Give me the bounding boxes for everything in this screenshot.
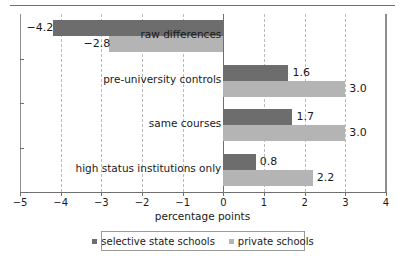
gridline	[345, 14, 346, 192]
y-axis-tick	[20, 103, 24, 104]
legend-item-selective-state-schools: selective state schools	[92, 236, 215, 247]
bar	[223, 81, 345, 97]
bar-value-label: 1.7	[296, 109, 314, 125]
x-axis-tick	[305, 192, 306, 196]
y-axis-tick	[20, 148, 24, 149]
bar	[223, 154, 256, 170]
bar-value-label: 3.0	[349, 81, 367, 97]
bar	[223, 170, 312, 186]
category-label: pre-university controls	[0, 73, 221, 85]
x-axis-tick-label: −3	[94, 197, 109, 208]
bar	[223, 109, 292, 125]
x-axis-tick-label: −5	[13, 197, 28, 208]
x-axis-tick-label: 2	[301, 197, 307, 208]
y-axis-tick	[20, 59, 24, 60]
chart-legend: selective state schools private schools	[101, 231, 305, 251]
x-axis-tick-label: 1	[261, 197, 267, 208]
x-axis-tick	[223, 192, 224, 196]
x-axis-tick	[386, 192, 387, 196]
x-axis-label: percentage points	[0, 210, 405, 222]
bar	[223, 125, 345, 141]
x-axis-tick-label: −1	[175, 197, 190, 208]
legend-swatch-icon	[92, 239, 97, 244]
x-axis-tick	[142, 192, 143, 196]
x-axis-tick	[264, 192, 265, 196]
x-axis-tick-label: 3	[342, 197, 348, 208]
category-label: same courses	[0, 117, 221, 129]
bar-value-label: 3.0	[349, 125, 367, 141]
x-axis-tick	[61, 192, 62, 196]
legend-swatch-icon	[229, 239, 234, 244]
category-label: raw differences	[0, 28, 221, 40]
x-axis-tick-label: −2	[135, 197, 150, 208]
legend-item-private-schools: private schools	[229, 236, 314, 247]
x-axis-tick-label: 0	[220, 197, 226, 208]
legend-label: selective state schools	[101, 236, 215, 247]
x-axis-tick-label: −4	[53, 197, 68, 208]
bar-value-label: 1.6	[292, 65, 310, 81]
top-divider-rule	[10, 5, 395, 6]
bar-value-label: 2.2	[317, 170, 335, 186]
x-axis-tick	[183, 192, 184, 196]
legend-label: private schools	[238, 236, 314, 247]
bar	[223, 65, 288, 81]
x-axis-tick	[20, 192, 21, 196]
gridline	[305, 14, 306, 192]
gridline	[386, 14, 387, 192]
bar-value-label: 0.8	[260, 154, 278, 170]
x-axis-tick-label: 4	[383, 197, 389, 208]
category-label: high status institutions only	[0, 162, 221, 174]
x-axis-line	[20, 192, 387, 193]
x-axis-tick	[101, 192, 102, 196]
x-axis-tick	[345, 192, 346, 196]
bar-chart: −4.2−2.8raw differences1.63.0pre-univers…	[0, 0, 405, 263]
